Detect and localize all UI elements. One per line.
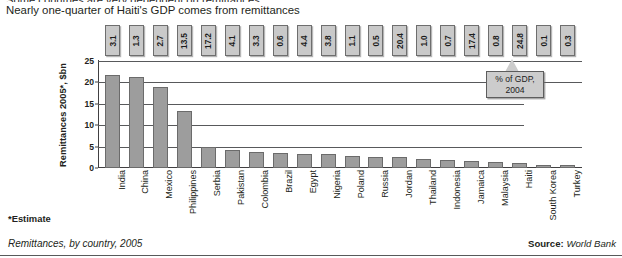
bar-pakistan [225,150,240,168]
y-axis-line [98,60,99,168]
x-label-text: Pakistan [236,170,246,205]
x-label-china: China [129,170,144,226]
x-label-text: China [140,170,150,194]
gdp-box-value: 0.6 [275,35,285,46]
x-label-jordan: Jordan [392,170,407,226]
x-label-philippines: Philippines [177,170,192,226]
headline-block: Some countries are very dependent on rem… [6,0,616,17]
x-label-text: India [117,170,127,190]
gridline-5 [98,147,582,148]
x-label-mexico: Mexico [153,170,168,226]
gdp-box-value: 3.1 [108,35,118,46]
estimate-footnote: *Estimate [8,213,51,224]
gdp-box-china: 1.3 [129,25,144,56]
bar-south-korea [536,165,551,168]
bar-haiti [512,163,527,168]
bar-nigeria [321,154,336,168]
gdp-box-malaysia: 0.8 [488,25,503,56]
bar-colombia [249,152,264,168]
x-label-india: India [105,170,120,226]
bar-brazil [273,153,288,168]
x-label-text: Egypt [308,170,318,193]
bar-turkey [560,165,575,168]
gdp-box-colombia: 3.3 [249,25,264,56]
gdp-box-value: 17.2 [203,33,213,49]
gdp-box-value: 20.4 [395,33,405,49]
x-label-indonesia: Indonesia [440,170,455,226]
x-label-brazil: Brazil [273,170,288,226]
gdp-callout: % of GDP, 2004 [486,71,544,98]
bar-indonesia [440,160,455,168]
bar-china [129,77,144,168]
gdp-box-value: 0.8 [491,35,501,46]
gdp-box-value: 2.7 [155,35,165,46]
gdp-box-jamaica: 17.4 [464,25,479,56]
bar-india [105,75,120,168]
gdp-box-nigeria: 3.8 [321,25,336,56]
y-tick-label-15: 15 [84,99,94,109]
gdp-box-haiti: 24.8 [512,25,527,56]
x-label-text: Thailand [428,170,438,205]
figure-caption: Remittances, by country, 2005 [8,238,142,249]
gdp-box-russia: 0.5 [368,25,383,56]
headline-cut-line: Some countries are very dependent on rem… [6,0,616,2]
x-label-text: Turkey [572,170,582,197]
gdp-box-pakistan: 4.1 [225,25,240,56]
gdp-box-indonesia: 0.7 [440,25,455,56]
bar-philippines [177,111,192,168]
x-label-text: Indonesia [452,170,462,209]
gdp-box-value: 13.5 [179,33,189,49]
bar-jamaica [464,161,479,168]
gdp-box-jordan: 20.4 [392,25,407,56]
gdp-box-value: 24.8 [515,33,525,49]
gdp-box-value: 3.8 [323,35,333,46]
gdp-box-south-korea: 0.1 [536,25,551,56]
gdp-box-value: 0.5 [371,35,381,46]
x-label-jamaica: Jamaica [464,170,479,226]
y-tick-label-20: 20 [84,77,94,87]
x-label-text: Jordan [404,170,414,198]
x-label-colombia: Colombia [249,170,264,226]
x-label-text: Russia [380,170,390,198]
x-label-text: Haiti [524,170,534,188]
bar-thailand [416,159,431,168]
x-label-text: Malaysia [500,170,510,206]
gdp-box-philippines: 13.5 [177,25,192,56]
y-tick-label-5: 5 [89,142,94,152]
callout-line-2: 2004 [505,85,524,96]
gdp-box-value: 4.4 [299,35,309,46]
bar-egypt [297,154,312,168]
gdp-box-value: 17.4 [467,33,477,49]
y-tick-label-10: 10 [84,120,94,130]
source-value: World Bank [566,238,616,249]
y-axis-ticks: 0510152025 [78,54,98,174]
x-label-text: South Korea [548,170,558,221]
gdp-box-value: 0.7 [443,35,453,46]
bottom-divider [0,255,622,256]
gdp-box-poland: 1.1 [345,25,360,56]
x-label-text: Mexico [164,170,174,199]
x-label-malaysia: Malaysia [488,170,503,226]
x-label-haiti: Haiti [512,170,527,226]
page-title: Nearly one-quarter of Haiti's GDP comes … [6,3,616,17]
bar-russia [368,157,383,168]
x-label-text: Colombia [260,170,270,208]
x-label-text: Nigeria [332,170,342,199]
x-label-text: Serbia [212,170,222,196]
x-label-text: Jamaica [476,170,486,204]
y-axis-title: Remittances 2005*, $bn [56,61,70,168]
source-label: Source: [528,238,564,249]
x-label-egypt: Egypt [297,170,312,226]
x-label-text: Brazil [284,170,294,193]
gdp-box-value: 4.1 [227,35,237,46]
gdp-box-serbia: 17.2 [201,25,216,56]
gdp-box-egypt: 4.4 [297,25,312,56]
bar-poland [345,156,360,168]
gdp-box-value: 3.3 [251,35,261,46]
gdp-box-value: 0.1 [539,35,549,46]
x-label-thailand: Thailand [416,170,431,226]
gdp-box-turkey: 0.3 [560,25,575,56]
x-label-poland: Poland [345,170,360,226]
x-label-turkey: Turkey [560,170,575,226]
source-note: Source: World Bank [528,238,616,249]
